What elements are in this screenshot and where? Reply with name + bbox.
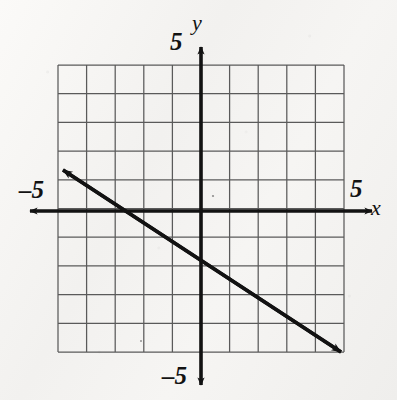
coordinate-plane: [0, 0, 397, 400]
scan-speck: [140, 340, 142, 342]
x-axis-max-tick-label: 5: [350, 176, 363, 201]
x-axis-min-tick-label: –5: [19, 177, 44, 202]
y-axis-variable-label: y: [192, 12, 202, 34]
y-axis-min-tick-label: –5: [162, 363, 187, 388]
graph-figure: 5 y –5 5 x –5: [0, 0, 397, 400]
scan-speck: [212, 195, 214, 197]
x-axis-variable-label: x: [371, 197, 381, 219]
y-axis-max-tick-label: 5: [170, 29, 183, 54]
